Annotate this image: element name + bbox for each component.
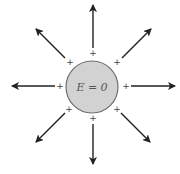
plus-charge-top-left: + <box>66 57 74 67</box>
field-inside-label: E = 0 <box>75 81 107 94</box>
field-line-arrow-up-left <box>36 29 65 58</box>
field-line-arrow-up-right <box>122 29 151 58</box>
plus-charge-top: + <box>89 48 97 58</box>
plus-charge-bottom-left: + <box>65 104 73 114</box>
field-line-arrow-down-right <box>121 113 150 142</box>
plus-charge-bottom: + <box>89 113 97 123</box>
plus-charge-right: + <box>122 81 130 91</box>
plus-charge-top-right: + <box>113 57 121 67</box>
electric-field-diagram: E = 0 ++++++++ <box>0 0 180 174</box>
plus-charge-left: + <box>56 81 64 91</box>
field-line-arrow-down-left <box>36 113 65 142</box>
plus-charge-bottom-right: + <box>113 104 121 114</box>
